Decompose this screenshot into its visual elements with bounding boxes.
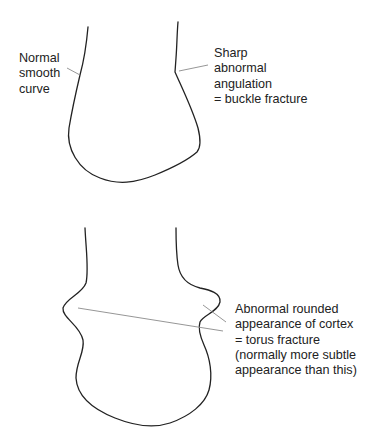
label-line: = torus fracture (235, 333, 357, 348)
label-line: = buckle fracture (214, 92, 307, 107)
pointer-buckle-angulation (179, 65, 208, 71)
torus-fracture-bone (63, 228, 226, 426)
pointer-torus-short (203, 305, 226, 322)
bone-outline-top (69, 22, 201, 182)
label-line: Abnormal rounded (235, 302, 357, 317)
label-line: angulation (214, 77, 307, 92)
label-line: appearance than this) (235, 363, 357, 378)
label-line: smooth (19, 66, 60, 81)
label-torus-fracture: Abnormal rounded appearance of cortex = … (235, 302, 357, 378)
label-line: abnormal (214, 61, 307, 76)
label-line: appearance of cortex (235, 317, 357, 332)
label-line: Normal (19, 51, 60, 66)
buckle-fracture-bone (67, 22, 208, 182)
label-buckle-fracture: Sharp abnormal angulation = buckle fract… (214, 46, 307, 107)
label-line: (normally more subtle (235, 348, 357, 363)
pointer-normal-curve (67, 68, 80, 75)
label-line: Sharp (214, 46, 307, 61)
label-normal-smooth-curve: Normal smooth curve (19, 51, 60, 97)
label-line: curve (19, 82, 60, 97)
